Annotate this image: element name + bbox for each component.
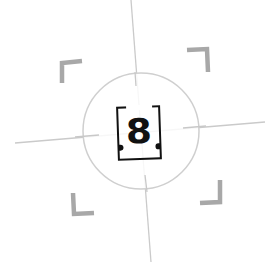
- aim-reticle: 8: [0, 0, 280, 270]
- target-number-box[interactable]: 8: [116, 105, 162, 161]
- box-notch-left: [118, 145, 123, 151]
- box-notch-right: [155, 143, 160, 149]
- corner-bracket-bottom-left: [73, 193, 94, 214]
- corner-bracket-top-right: [187, 49, 208, 72]
- corner-bracket-bottom-right: [200, 180, 220, 203]
- target-number: 8: [125, 114, 152, 149]
- corner-bracket-top-left: [62, 61, 82, 83]
